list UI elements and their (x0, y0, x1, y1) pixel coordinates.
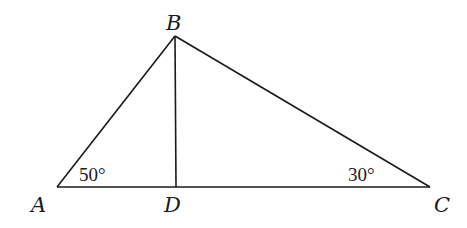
vertex-label-d: D (163, 193, 181, 217)
vertex-label-c: C (434, 193, 450, 217)
vertex-label-a: A (29, 193, 46, 217)
angle-label-c: 30° (348, 164, 375, 185)
angle-label-a: 50° (79, 164, 106, 185)
segment-bc (175, 36, 430, 187)
vertex-label-b: B (165, 11, 181, 35)
segment-ab (57, 36, 175, 187)
triangle-diagram: B A D C 50° 30° (0, 0, 467, 228)
segment-bd-altitude (175, 36, 176, 187)
